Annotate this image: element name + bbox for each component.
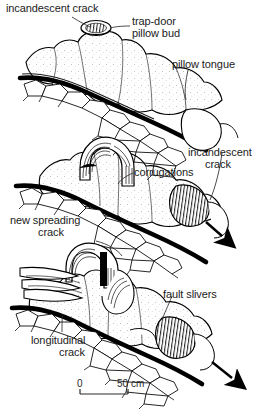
label-incandescent-crack-mid-line2: crack	[205, 158, 231, 171]
label-longitudinal-crack-line1: longitudinal	[31, 334, 85, 347]
scale-bar-zero-label: 0	[77, 378, 83, 389]
label-new-spreading-crack-line2: crack	[38, 226, 64, 239]
scale-bar-max-label: 50 cm	[117, 378, 144, 389]
label-trap-door-pillow-bud-line1: trap-door	[132, 15, 176, 28]
label-new-spreading-crack-line1: new spreading	[10, 214, 80, 227]
label-longitudinal-crack-line2: crack	[59, 346, 85, 359]
label-incandescent-crack-top: incandescent crack	[6, 2, 98, 15]
label-corrugations: corrugations	[134, 166, 193, 179]
label-fault-slivers: fault slivers	[163, 288, 217, 301]
label-pillow-tongue: pillow tongue	[172, 58, 235, 71]
label-incandescent-crack-mid-line1: incandescent	[188, 146, 252, 159]
label-trap-door-pillow-bud-line2: pillow bud	[132, 27, 180, 40]
trap-door-pillow-bud-1	[81, 21, 111, 36]
